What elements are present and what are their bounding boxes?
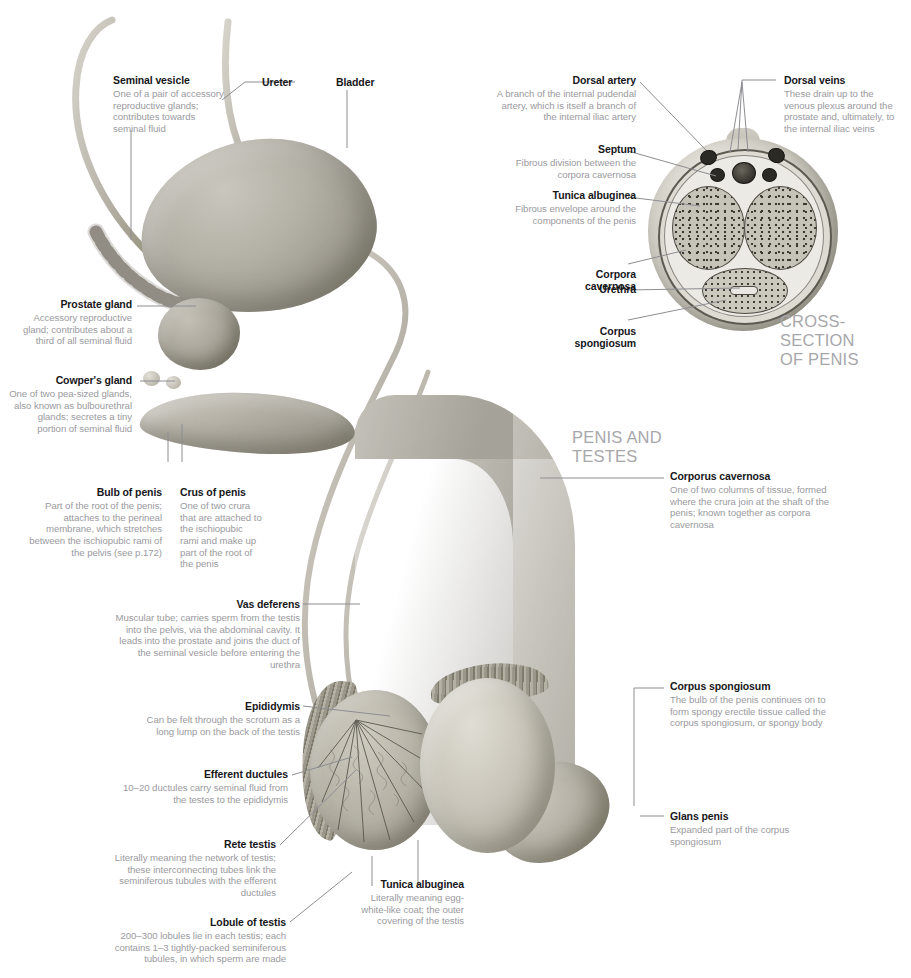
callout-title: Corpus spongiosum	[508, 325, 636, 351]
callout-dorsal-artery: Dorsal artery A branch of the internal p…	[488, 74, 636, 123]
callout-crus-of-penis: Crus of penis One of two crura that are …	[180, 486, 262, 570]
bladder-organ	[128, 123, 388, 330]
callout-title: Prostate gland	[8, 298, 132, 311]
callout-title: Dorsal artery	[488, 74, 636, 87]
penis-cross-section-artwork	[648, 128, 838, 333]
corpus-cavernosum-left	[672, 186, 745, 270]
callout-title: Tunica albuginea	[356, 878, 464, 891]
callout-lobule-of-testis: Lobule of testis 200–300 lobules lie in …	[92, 916, 286, 965]
callout-prostate-gland: Prostate gland Accessory reproductive gl…	[8, 298, 132, 347]
callout-title: Cowper's gland	[8, 374, 132, 387]
cowpers-gland-organ-right	[166, 376, 181, 389]
callout-title: Seminal vesicle	[113, 74, 228, 87]
callout-body: The bulb of the penis continues on to fo…	[670, 694, 842, 729]
heading-cross-section-of-penis: CROSS-SECTION OF PENIS	[780, 312, 911, 368]
corpus-cavernosum-right	[744, 186, 817, 270]
callout-corporus-cavernosa: Corporus cavernosa One of two columns of…	[670, 470, 842, 531]
anatomy-figure-page: Seminal vesicle One of a pair of accesso…	[0, 0, 911, 978]
callout-urethra: Urethra	[508, 283, 636, 297]
deep-dorsal-vein	[732, 162, 756, 184]
callout-title: Bladder	[336, 76, 406, 89]
dorsal-artery-right	[762, 168, 777, 182]
callout-body: Expanded part of the corpus spongiosum	[670, 824, 842, 847]
callout-title: Corpus spongiosum	[670, 680, 842, 693]
callout-epididymis: Epididymis Can be felt through the scrot…	[140, 700, 300, 737]
callout-title: Ureter	[262, 76, 322, 89]
callout-title: Crus of penis	[180, 486, 262, 499]
callout-title: Vas deferens	[112, 598, 300, 611]
testis-intact-organ	[420, 678, 555, 853]
leader-lobule-of-testis	[290, 872, 352, 922]
callout-body: One of two columns of tissue, formed whe…	[670, 484, 842, 531]
callout-body: A branch of the internal pudendal artery…	[488, 88, 636, 123]
callout-body: These drain up to the venous plexus arou…	[784, 88, 906, 135]
callout-body: 10–20 ductules carry seminal fluid from …	[110, 782, 288, 805]
callout-body: 200–300 lobules lie in each testis; each…	[92, 930, 286, 965]
callout-body: Muscular tube; carries sperm from the te…	[112, 612, 300, 671]
callout-septum: Septum Fibrous division between the corp…	[488, 143, 636, 180]
callout-dorsal-veins: Dorsal veins These drain up to the venou…	[784, 74, 906, 135]
callout-efferent-ductules: Efferent ductules 10–20 ductules carry s…	[110, 768, 288, 805]
callout-body: One of a pair of accessory reproductive …	[113, 88, 228, 135]
callout-title: Septum	[488, 143, 636, 156]
callout-body: Fibrous division between the corpora cav…	[488, 157, 636, 180]
callout-bulb-of-penis: Bulb of penis Part of the root of the pe…	[24, 486, 162, 558]
callout-title: Rete testis	[96, 838, 276, 851]
callout-body: One of two crura that are attached to th…	[180, 500, 262, 570]
callout-corpora-cavernosa: Corpora cavernosa	[508, 248, 636, 314]
callout-body: Fibrous envelope around the components o…	[488, 203, 636, 226]
callout-body: Literally meaning egg-white-like coat; t…	[356, 892, 464, 927]
callout-corpus-spongiosum: Corpus spongiosum The bulb of the penis …	[670, 680, 842, 729]
callout-title: Glans penis	[670, 810, 842, 823]
callout-seminal-vesicle: Seminal vesicle One of a pair of accesso…	[113, 74, 228, 135]
callout-tunica-albuginea-penis: Tunica albuginea Fibrous envelope around…	[488, 189, 636, 226]
callout-bladder: Bladder	[336, 76, 406, 90]
dorsal-artery-left	[710, 168, 725, 182]
callout-title: Efferent ductules	[110, 768, 288, 781]
callout-title: Epididymis	[140, 700, 300, 713]
callout-cowpers-gland: Cowper's gland One of two pea-sized glan…	[8, 374, 132, 435]
callout-ureter: Ureter	[262, 76, 322, 90]
prostate-gland-organ	[158, 298, 240, 370]
callout-title: Bulb of penis	[24, 486, 162, 499]
callout-title: Tunica albuginea	[488, 189, 636, 202]
callout-title: Lobule of testis	[92, 916, 286, 929]
callout-corpus-spongiosum-xsec: Corpus spongiosum	[508, 305, 636, 371]
callout-title: Dorsal veins	[784, 74, 906, 87]
cowpers-gland-organ-left	[143, 371, 160, 386]
urethra-lumen	[730, 286, 758, 295]
callout-glans-penis: Glans penis Expanded part of the corpus …	[670, 810, 842, 847]
bulb-of-penis-organ	[139, 387, 357, 458]
callout-body: Part of the root of the penis; attaches …	[24, 500, 162, 559]
left-ureter-tube	[76, 20, 150, 255]
callout-rete-testis: Rete testis Literally meaning the networ…	[96, 838, 276, 899]
callout-body: Accessory reproductive gland; contribute…	[8, 312, 132, 347]
callout-title: Corporus cavernosa	[670, 470, 842, 483]
callout-tunica-albuginea-testis: Tunica albuginea Literally meaning egg-w…	[356, 878, 464, 927]
callout-title: Urethra	[508, 283, 636, 296]
callout-body: Literally meaning the network of testis;…	[96, 852, 276, 899]
callout-body: Can be felt through the scrotum as a lon…	[140, 714, 300, 737]
callout-body: One of two pea-sized glands, also known …	[8, 388, 132, 435]
heading-penis-and-testes: PENIS AND TESTES	[572, 428, 662, 466]
callout-vas-deferens: Vas deferens Muscular tube; carries sper…	[112, 598, 300, 670]
